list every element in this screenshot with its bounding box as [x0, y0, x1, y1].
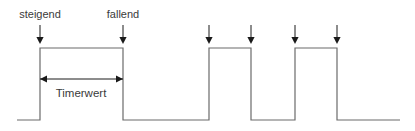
- label-fallend: fallend: [107, 8, 139, 20]
- timing-diagram-canvas: steigend fallend Timerwert: [0, 0, 415, 131]
- label-timerwert: Timerwert: [56, 87, 107, 99]
- arrow-head: [205, 37, 212, 44]
- timerwert-dimension-arrow: [40, 76, 123, 83]
- arrow-head: [333, 37, 340, 44]
- edge-marker-arrow-icon: [247, 25, 254, 44]
- label-steigend: steigend: [19, 8, 61, 20]
- arrow-head: [247, 37, 254, 44]
- dimension-arrowhead-left: [40, 76, 47, 83]
- edge-marker-arrow-icon: [333, 25, 340, 44]
- arrow-head: [36, 37, 43, 44]
- signal-waveform-path: [17, 48, 400, 120]
- dimension-arrowhead-right: [116, 76, 123, 83]
- edge-marker-group: [36, 25, 340, 44]
- edge-marker-arrow-icon: [291, 25, 298, 44]
- arrow-head: [119, 37, 126, 44]
- edge-marker-arrow-icon: [119, 25, 126, 44]
- edge-marker-arrow-icon: [205, 25, 212, 44]
- arrow-head: [291, 37, 298, 44]
- edge-marker-arrow-icon: [36, 25, 43, 44]
- timing-diagram-figure: steigend fallend Timerwert: [0, 0, 415, 131]
